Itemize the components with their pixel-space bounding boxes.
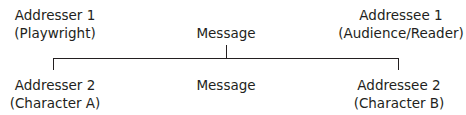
center-tick xyxy=(226,45,227,59)
top-addressee-name: Addressee 1 xyxy=(336,6,466,24)
top-addressee: Addressee 1 (Audience/Reader) xyxy=(336,6,466,42)
bottom-addresser: Addresser 2 (Character A) xyxy=(2,76,108,112)
left-tick xyxy=(53,58,54,70)
top-addresser-name: Addresser 1 xyxy=(2,6,108,24)
right-tick xyxy=(398,58,399,70)
bottom-message: Message xyxy=(186,76,266,94)
top-addresser-role: (Playwright) xyxy=(2,24,108,42)
bottom-addressee-role: (Character B) xyxy=(346,94,452,112)
bottom-addresser-name: Addresser 2 xyxy=(2,76,108,94)
bottom-addressee-name: Addressee 2 xyxy=(346,76,452,94)
horizontal-connector xyxy=(53,58,399,59)
top-addressee-role: (Audience/Reader) xyxy=(336,24,466,42)
bottom-addresser-role: (Character A) xyxy=(2,94,108,112)
top-message-label: Message xyxy=(186,24,266,42)
bottom-message-label: Message xyxy=(186,76,266,94)
top-addresser: Addresser 1 (Playwright) xyxy=(2,6,108,42)
top-message: Message xyxy=(186,24,266,42)
bottom-addressee: Addressee 2 (Character B) xyxy=(346,76,452,112)
